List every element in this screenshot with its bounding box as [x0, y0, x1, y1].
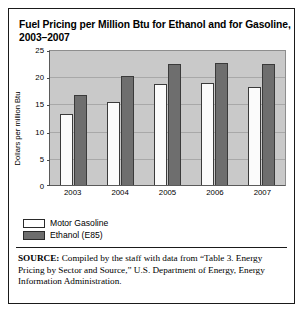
x-axis-label-2003: 2003 — [49, 188, 96, 197]
y-axis-label-text: Dollars per million Btu — [14, 91, 23, 165]
bar-2005-motor-gasoline — [154, 84, 167, 185]
legend-item-1: Motor Gasoline — [23, 218, 294, 228]
y-axis-label: Dollars per million Btu — [11, 78, 25, 178]
x-axis-labels: 20032004200520062007 — [49, 188, 286, 197]
figure-panel: Fuel Pricing per Million Btu for Ethanol… — [8, 8, 295, 304]
legend-item-2: Ethanol (E85) — [23, 230, 294, 240]
bar-2006-motor-gasoline — [201, 83, 214, 185]
y-tick-label-15: 15 — [35, 100, 44, 109]
y-tick-label-20: 20 — [35, 73, 44, 82]
bar-group-2003 — [50, 51, 97, 185]
figure-title: Fuel Pricing per Million Btu for Ethanol… — [9, 9, 294, 44]
y-tick-mark-15 — [47, 105, 50, 106]
source-note: SOURCE: Compiled by the staff with data … — [9, 248, 294, 288]
y-tick-mark-20 — [47, 78, 50, 79]
chart-legend: Motor GasolineEthanol (E85) — [9, 218, 294, 240]
legend-swatch-2 — [23, 231, 45, 240]
legend-swatch-1 — [23, 219, 45, 228]
x-axis-label-2004: 2004 — [96, 188, 143, 197]
bar-2005-ethanol-e85 — [168, 64, 181, 185]
y-tick-mark-25 — [47, 51, 50, 52]
y-axis-ticks: 0510152025 — [25, 50, 47, 186]
bar-2003-ethanol-e85 — [74, 95, 87, 185]
bar-2007-ethanol-e85 — [262, 64, 275, 185]
y-tick-label-0: 0 — [40, 182, 44, 191]
title-line-2: 2003–2007 — [19, 31, 284, 44]
x-axis-label-2005: 2005 — [144, 188, 191, 197]
y-tick-mark-5 — [47, 160, 50, 161]
bar-groups — [50, 51, 285, 185]
bar-group-2006 — [191, 51, 238, 185]
y-tick-label-10: 10 — [35, 127, 44, 136]
y-tick-label-5: 5 — [40, 154, 44, 163]
bar-group-2004 — [97, 51, 144, 185]
bar-chart: Dollars per million Btu 0510152025 20032… — [9, 50, 294, 208]
bar-2004-ethanol-e85 — [121, 76, 134, 185]
title-line-1: Fuel Pricing per Million Btu for Ethanol… — [19, 18, 284, 31]
y-tick-mark-0 — [47, 185, 50, 186]
bar-2007-motor-gasoline — [248, 87, 261, 185]
y-tick-label-25: 25 — [35, 46, 44, 55]
bar-group-2005 — [144, 51, 191, 185]
legend-label-2: Ethanol (E85) — [50, 230, 103, 240]
plot-area — [49, 50, 286, 186]
x-axis-label-2007: 2007 — [239, 188, 286, 197]
y-tick-mark-10 — [47, 133, 50, 134]
x-axis-label-2006: 2006 — [191, 188, 238, 197]
bar-group-2007 — [238, 51, 285, 185]
source-label: SOURCE: — [18, 253, 59, 263]
legend-label-1: Motor Gasoline — [50, 218, 108, 228]
bar-2003-motor-gasoline — [60, 114, 73, 185]
bar-2004-motor-gasoline — [107, 102, 120, 185]
bar-2006-ethanol-e85 — [215, 63, 228, 185]
